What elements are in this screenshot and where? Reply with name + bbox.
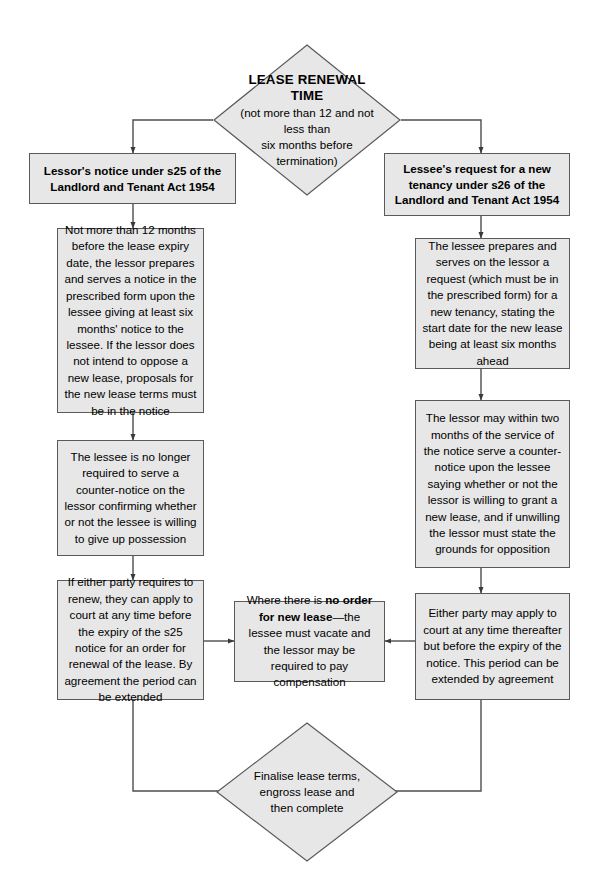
node-finalise-lease-line-2: engross lease and [260,785,355,798]
node-right-step-3[interactable]: Either party may apply to court at any t… [415,593,570,700]
node-lease-renewal-time-subtitle-2: six months before termination) [261,138,353,167]
centre-note-prefix: Where there is [247,593,326,606]
node-left-step-3-label: If either party requires to renew, they … [58,574,203,705]
node-finalise-lease-line-1: Finalise lease terms, [254,769,360,782]
node-no-order-for-new-lease[interactable]: Where there is no order for new lease—th… [234,601,385,682]
node-left-step-1[interactable]: Not more than 12 months before the lease… [57,228,204,413]
node-lease-renewal-time[interactable]: LEASE RENEWAL TIME (not more than 12 and… [213,44,401,196]
node-no-order-for-new-lease-label: Where there is no order for new lease—th… [235,592,384,690]
node-lease-renewal-time-title: LEASE RENEWAL TIME [234,72,381,104]
flowchart-canvas: LEASE RENEWAL TIME (not more than 12 and… [0,0,614,896]
node-lease-renewal-time-subtitle-1: (not more than 12 and not less than [240,106,373,135]
node-lessor-notice-s25-label: Lessor's notice under s25 of the Landlor… [30,163,235,194]
node-lessee-request-s26-label: Lessee's request for a new tenancy under… [385,161,569,208]
node-lease-renewal-time-text: LEASE RENEWAL TIME (not more than 12 and… [234,72,381,169]
node-finalise-lease-line-3: then complete [271,801,344,814]
connector-top-to-right [401,120,481,153]
node-right-step-2[interactable]: The lessor may within two months of the … [415,400,570,568]
node-right-step-2-label: The lessor may within two months of the … [416,410,569,558]
node-left-step-1-label: Not more than 12 months before the lease… [58,222,203,419]
node-left-step-3[interactable]: If either party requires to renew, they … [57,580,204,700]
node-finalise-lease[interactable]: Finalise lease terms, engross lease and … [216,722,398,862]
node-right-step-1-label: The lessee prepares and serves on the le… [416,238,569,369]
node-finalise-lease-text: Finalise lease terms, engross lease and … [236,768,378,817]
node-right-step-3-label: Either party may apply to court at any t… [416,605,569,687]
node-left-step-2-label: The lessee is no longer required to serv… [58,449,203,547]
node-left-step-2[interactable]: The lessee is no longer required to serv… [57,440,204,556]
node-right-step-1[interactable]: The lessee prepares and serves on the le… [415,238,570,369]
node-lessor-notice-s25[interactable]: Lessor's notice under s25 of the Landlor… [29,153,236,204]
connector-top-to-left [133,120,213,153]
node-lessee-request-s26[interactable]: Lessee's request for a new tenancy under… [384,153,570,216]
